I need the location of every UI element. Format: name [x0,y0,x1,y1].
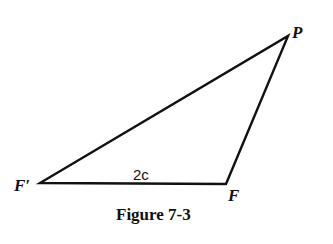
figure-caption: Figure 7-3 [116,205,191,224]
triangle-diagram: P F F′ 2c Figure 7-3 [0,0,333,244]
triangle-shape [40,36,288,184]
vertex-label-f-prime: F′ [13,176,30,195]
vertex-label-p: P [291,23,303,42]
edge-label-2c: 2c [133,166,149,183]
vertex-label-f: F [227,186,240,205]
